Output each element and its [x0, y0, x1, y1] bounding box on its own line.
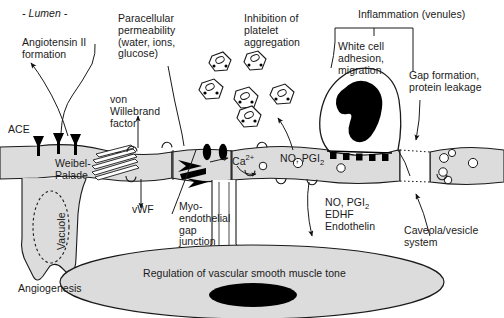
- caveola: [259, 162, 267, 170]
- calcium-base: Ca: [232, 155, 246, 167]
- platelet-group: [199, 51, 294, 127]
- platelet-inhibition-arrow: [278, 118, 293, 150]
- ace-label: ACE: [8, 124, 30, 136]
- lumen-label: - Lumen -: [22, 8, 67, 20]
- figure-canvas: - Lumen - Angiotensin II formation ACE P…: [0, 0, 504, 318]
- platelet-inhibition-label: Inhibition of platelet aggregation: [244, 13, 300, 48]
- caveola-label: Caveola/vesicle system: [404, 225, 478, 249]
- caveola: [439, 168, 447, 176]
- caveola: [468, 158, 477, 167]
- platelet: [270, 84, 294, 104]
- vwf-label: vWF: [132, 204, 154, 216]
- white-cell-label: White cell adhesion, migration: [338, 41, 384, 76]
- platelet: [199, 79, 223, 99]
- smooth-muscle-label: Regulation of vascular smooth muscle ton…: [143, 268, 346, 280]
- endothelin-label: Endothelin: [325, 221, 375, 233]
- endothelial-cell-body-right: [430, 147, 504, 184]
- angiotensin-arrow: [31, 63, 68, 136]
- angiogenic-sprout: [22, 178, 86, 280]
- myoendothelial-label: Myo- endothelial gap junction: [179, 201, 230, 248]
- gap-formation-label: Gap formation, protein leakage: [409, 70, 482, 94]
- weibel-palade-label: Weibel- Palade: [55, 158, 91, 182]
- platelet: [237, 106, 261, 127]
- calcium-label: Ca2+: [232, 152, 254, 167]
- no-pgi2-abluminal-sub: 2: [365, 202, 369, 211]
- paracellular-leader: [168, 66, 184, 146]
- calcium-charge: 2+: [246, 153, 255, 162]
- platelet: [244, 51, 266, 70]
- white-blood-cell: [320, 68, 401, 155]
- no-pgi2-abluminal-text: NO, PGI: [325, 196, 365, 208]
- platelet: [234, 87, 258, 108]
- smooth-muscle-cell: [60, 245, 444, 318]
- no-pgi2-luminal-text: NO, PGI: [280, 152, 320, 164]
- gap-formation-arrow: [416, 100, 420, 140]
- paracellular-label: Paracellular permeability (water, ions, …: [118, 13, 175, 60]
- smooth-muscle-nucleus: [209, 283, 297, 307]
- inflammation-label: Inflammation (venules): [358, 9, 465, 21]
- no-pgi2-luminal-label: NO, PGI2: [280, 153, 324, 169]
- white-cell-leader: [331, 42, 335, 68]
- angiotensin-label: Angiotensin II formation: [22, 37, 86, 61]
- von-willebrand-label: von Willebrand factor: [110, 94, 160, 129]
- no-pgi2-luminal-sub: 2: [320, 158, 324, 167]
- caveola: [440, 154, 449, 163]
- interendothelial-gap-region: [400, 150, 430, 182]
- platelet: [209, 52, 231, 71]
- no-pgi2-abluminal-arrow: [308, 182, 312, 236]
- angiogenesis-label: Angiogenesis: [18, 283, 82, 295]
- vacuole-label: Vacuole: [56, 212, 68, 250]
- caveola: [337, 164, 345, 172]
- caveola: [444, 176, 452, 184]
- caveola: [448, 149, 455, 156]
